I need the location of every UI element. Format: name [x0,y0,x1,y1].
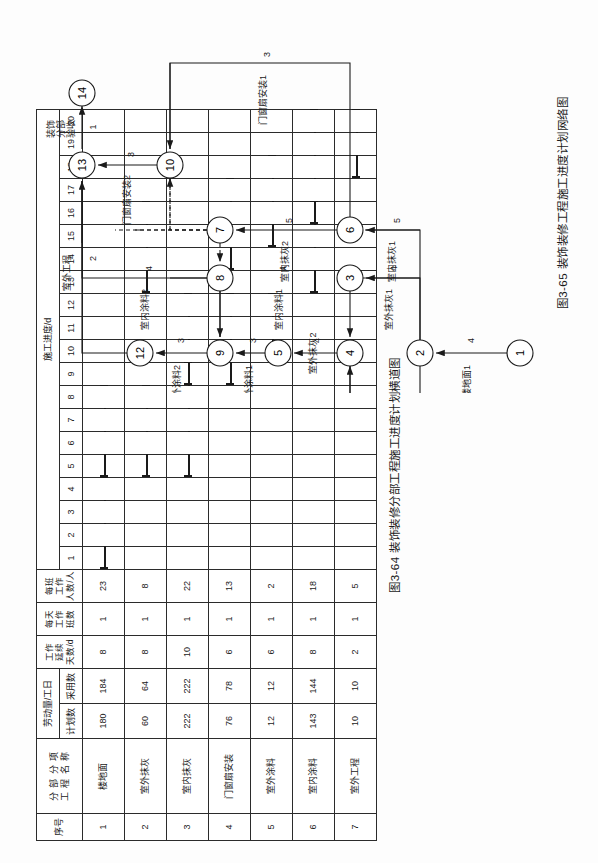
gantt-day-cell [335,547,377,570]
gantt-day-cell [167,547,209,570]
gantt-day-cell [293,524,335,547]
gantt-day-cell [293,432,335,455]
gantt-bar-start-tick [100,475,108,477]
edge-dur-lou-di-mian-1: 4 [466,338,476,343]
gantt-day-cell [83,547,125,570]
gantt-day-cell [209,432,251,455]
cell-duration: 6 [251,636,293,669]
edge-dur-men-chuang-2: 3 [126,152,136,157]
gantt-bar-start-tick [142,475,150,477]
gantt-day-cell [251,409,293,432]
edge-label-shi-nei-mo-hui-1: 室内抹灰1 [386,241,397,282]
cell-people: 2 [251,570,293,603]
gantt-bar-start-tick [100,567,108,569]
cell-duration: 6 [209,636,251,669]
network-activity-labels: 楼地面1 4 楼地面2 4 室外抹灰1 4 室外抹灰2 4 室内抹灰1 5 室内… [45,52,476,393]
gantt-day-cell [251,501,293,524]
gantt-day-cell [335,432,377,455]
cell-labor-used: 78 [209,669,251,704]
header-work-name: 分 部 分 项 工 程 名 称 [37,739,83,814]
day-tick: 4 [60,478,83,501]
cell-work-name: 室内涂料 [293,739,335,814]
edge-label-shi-nei-mo-hui-2: 室内抹灰2 [279,241,290,282]
gantt-day-cell [251,524,293,547]
header-labor-used: 采用数 [60,669,83,704]
gantt-day-cell [293,455,335,478]
day-tick: 7 [60,409,83,432]
cell-seq: 4 [209,814,251,841]
cell-work-name: 室内抹灰 [167,739,209,814]
cell-shifts: 1 [251,603,293,636]
node-9-label: 9 [214,350,226,356]
edge-dur-shi-wai-gong-cheng: 2 [88,256,98,261]
acceptance-label-line3: 验收 [65,120,76,138]
cell-shifts: 1 [83,603,125,636]
cell-work-name: 室外工程 [335,739,377,814]
node-10-label: 10 [164,159,176,171]
header-shifts: 每天 工作 班数 [37,603,83,636]
edge-label-shi-nei-tu-liao-2: 室内涂料2 [139,289,150,330]
node-4-label: 4 [344,350,356,356]
node-1-label: 1 [514,350,526,356]
cell-labor-plan: 60 [125,704,167,739]
gantt-day-cell [209,409,251,432]
node-3-label: 3 [344,275,356,281]
gantt-day-cell [125,501,167,524]
cell-duration: 8 [125,636,167,669]
node-6-label: 6 [344,227,356,233]
gantt-day-cell [167,432,209,455]
cell-people: 22 [167,570,209,603]
cell-work-name: 门窗扇安装 [209,739,251,814]
edge-label-men-chuang-2: 门窗扇安装2 [121,175,132,225]
gantt-day-cell [83,478,125,501]
gantt-day-cell [293,409,335,432]
edge-dur-shi-wai-tu-liao-2: 3 [176,338,186,343]
cell-labor-plan: 76 [209,704,251,739]
node-13-label: 13 [76,159,88,171]
cell-labor-plan: 12 [251,704,293,739]
cell-shifts: 1 [209,603,251,636]
edge-dur-shi-wai-tu-liao-1: 3 [248,338,258,343]
cell-shifts: 1 [125,603,167,636]
gantt-day-cell [251,547,293,570]
gantt-day-cell [293,501,335,524]
cell-people: 5 [335,570,377,603]
cell-duration: 10 [167,636,209,669]
header-duration: 工作 延续 天数/d [37,636,83,669]
cell-labor-used: 64 [125,669,167,704]
day-tick: 2 [60,524,83,547]
header-labor-plan: 计划数 [60,704,83,739]
gantt-day-cell [335,501,377,524]
gantt-day-cell [209,478,251,501]
page-root: 序号 分 部 分 项 工 程 名 称 劳动量/工日 工作 延续 天数/d [0,0,598,863]
cell-labor-used: 222 [167,669,209,704]
cell-labor-plan: 180 [83,704,125,739]
edge-label-shi-wai-tu-liao-1: 室外涂料1 [243,365,254,393]
day-tick: 6 [60,432,83,455]
gantt-day-cell [167,524,209,547]
cell-people: 23 [83,570,125,603]
gantt-day-cell [251,478,293,501]
gantt-day-cell [335,478,377,501]
edge-label-men-chuang-1: 门窗扇安装1 [257,75,268,125]
cell-seq: 6 [293,814,335,841]
gantt-day-cell [125,455,167,478]
cell-seq: 2 [125,814,167,841]
gantt-day-cell [125,524,167,547]
gantt-day-cell [293,547,335,570]
day-tick: 1 [60,547,83,570]
gantt-day-cell [83,455,125,478]
node-7-label: 7 [214,227,226,233]
cell-people: 13 [209,570,251,603]
network-diagram-svg: 1 2 3 4 5 6 7 8 9 [20,13,550,393]
edge-dur-shi-nei-mo-hui-1: 5 [392,218,402,223]
network-diagram-figure: 1 2 3 4 5 6 7 8 9 [20,13,580,393]
cell-labor-plan: 222 [167,704,209,739]
cell-shifts: 1 [167,603,209,636]
cell-duration: 8 [293,636,335,669]
cell-shifts: 1 [293,603,335,636]
gantt-day-cell [125,409,167,432]
gantt-day-cell [209,501,251,524]
gantt-day-cell [335,409,377,432]
cell-duration: 8 [83,636,125,669]
